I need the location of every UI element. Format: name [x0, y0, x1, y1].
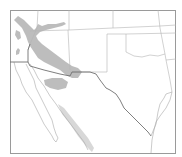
range-map	[0, 0, 182, 157]
